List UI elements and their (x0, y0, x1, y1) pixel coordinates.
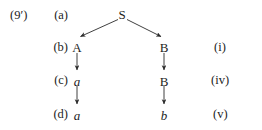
node-right-b-b: B (154, 41, 174, 54)
node-root-s: S (112, 8, 132, 21)
rule-label-i: (i) (214, 41, 226, 54)
node-left-d-a: a (67, 109, 87, 122)
node-left-c-a: a (67, 75, 87, 88)
node-right-c-b: B (154, 75, 174, 88)
branch-left-arrow (81, 20, 119, 37)
derivation-figure: (9′) (a) (b) (c) (d) S A a a B B b (i) (… (0, 0, 262, 130)
node-left-b-a: A (67, 41, 87, 54)
branch-right-arrow (127, 20, 161, 37)
node-right-d-b: b (154, 109, 174, 122)
rule-label-v: (v) (213, 108, 228, 121)
rule-label-iv: (iv) (211, 74, 229, 87)
